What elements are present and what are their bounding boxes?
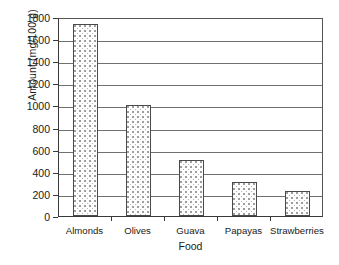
- x-axis-tick-mark: [164, 217, 165, 221]
- y-axis-tick: 0: [0, 211, 58, 223]
- y-axis-tick: 200: [0, 189, 58, 201]
- x-axis-label-group: AlmondsOlivesGuavaPapayasStrawberries: [58, 224, 323, 238]
- bar-olives: [126, 105, 150, 216]
- bar-almonds: [73, 24, 97, 216]
- y-axis-tick: 1400: [0, 56, 58, 68]
- x-axis-tick-label: Olives: [111, 224, 164, 237]
- y-axis-tick-group: 180016001400120010008006004002000: [0, 18, 58, 217]
- x-axis-tick-mark: [270, 217, 271, 221]
- y-axis-tick-label: 600: [32, 145, 50, 157]
- bars-layer: [59, 19, 322, 216]
- y-axis-tick-label: 200: [32, 189, 50, 201]
- x-axis-title: Food: [58, 239, 323, 253]
- y-axis-tick-label: 1600: [27, 34, 50, 46]
- y-axis-tick: 400: [0, 167, 58, 179]
- y-axis-tick: 1200: [0, 78, 58, 90]
- x-axis-tick-label: Almonds: [58, 224, 111, 237]
- y-axis-tick: 1800: [0, 12, 58, 24]
- bar-guava: [179, 160, 203, 216]
- y-axis-tick-label: 0: [44, 211, 50, 223]
- y-axis-tick-label: 800: [32, 123, 50, 135]
- x-axis-tick-mark: [217, 217, 218, 221]
- bar-papayas: [232, 182, 256, 216]
- bar-chart-figure: Amount (mg/100 g) 1800160014001200100080…: [0, 0, 339, 265]
- bar-strawberries: [285, 191, 309, 216]
- y-axis-tick-label: 1400: [27, 56, 50, 68]
- y-axis-tick-label: 400: [32, 167, 50, 179]
- y-axis-tick: 1600: [0, 34, 58, 46]
- x-axis-tick-label: Papayas: [217, 224, 270, 237]
- y-axis-tick: 600: [0, 145, 58, 157]
- y-axis-tick-label: 1000: [27, 100, 50, 112]
- y-axis-tick-label: 1800: [27, 12, 50, 24]
- y-axis-tick-label: 1200: [27, 78, 50, 90]
- x-axis-tick-label: Guava: [164, 224, 217, 237]
- y-axis-tick: 1000: [0, 100, 58, 112]
- x-axis-tick-group: [58, 217, 323, 222]
- plot-area: [58, 18, 323, 217]
- y-axis-tick: 800: [0, 123, 58, 135]
- x-axis-tick-mark: [111, 217, 112, 221]
- x-axis-tick-label: Strawberries: [270, 224, 323, 237]
